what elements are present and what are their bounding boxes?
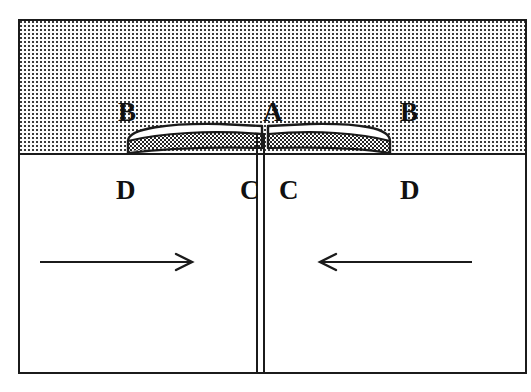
crack-line-left [256, 133, 258, 374]
arrow-left-pointing-right [40, 249, 200, 275]
label-c-right: C [279, 177, 299, 204]
arrow-right-pointing-left [312, 249, 472, 275]
label-a: A [263, 99, 283, 126]
label-b-left: B [118, 99, 136, 126]
crack-line-right [263, 133, 265, 374]
label-d-right: D [400, 177, 420, 204]
figure-root: B A B D C C D [0, 0, 531, 392]
central-crack [256, 133, 265, 374]
diagram-frame: B A B D C C D [18, 19, 527, 374]
arrow-right-icon [312, 249, 472, 275]
label-b-right: B [400, 99, 418, 126]
arrow-left-icon [40, 249, 200, 275]
label-d-left: D [116, 177, 136, 204]
label-c-left: C [240, 177, 260, 204]
